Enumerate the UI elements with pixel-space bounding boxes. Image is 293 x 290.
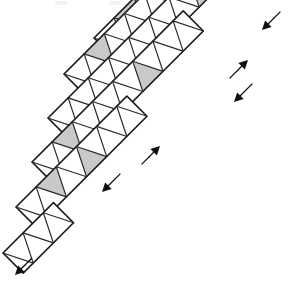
- triangular-strip-diagram: [0, 0, 293, 290]
- figure-root: [0, 0, 293, 290]
